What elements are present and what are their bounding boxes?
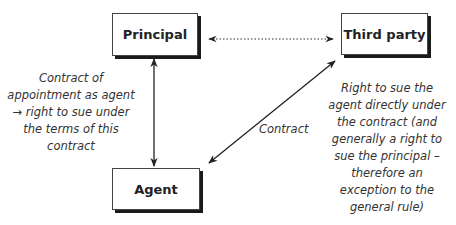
third-party-node: Third party <box>341 13 428 55</box>
right-note-line: therefore an <box>325 165 449 182</box>
right-note-line: sue the principal – <box>325 148 449 165</box>
right-note-line: generally a right to <box>325 131 449 148</box>
right-note: Right to sue the agent directly under th… <box>325 80 449 216</box>
right-note-line: the contract (and <box>325 114 449 131</box>
left-note-line: appointment as agent <box>5 87 137 104</box>
right-note-line: exception to the <box>325 182 449 199</box>
agent-node: Agent <box>112 168 200 210</box>
agent-label: Agent <box>134 182 178 197</box>
right-note-line: Right to sue the <box>325 80 449 97</box>
left-note-line: the terms of this <box>5 121 137 138</box>
left-note: Contract of appointment as agent → right… <box>5 70 137 155</box>
left-note-line: contract <box>5 138 137 155</box>
contract-edge-label: Contract <box>259 122 308 136</box>
agent-third-party-contract-arrow <box>209 61 335 163</box>
third-party-label: Third party <box>344 27 426 42</box>
left-note-line: → right to sue under <box>5 104 137 121</box>
right-note-line: general rule) <box>325 199 449 216</box>
principal-node: Principal <box>112 13 198 56</box>
left-note-line: Contract of <box>5 70 137 87</box>
principal-label: Principal <box>123 27 187 42</box>
right-note-line: agent directly under <box>325 97 449 114</box>
